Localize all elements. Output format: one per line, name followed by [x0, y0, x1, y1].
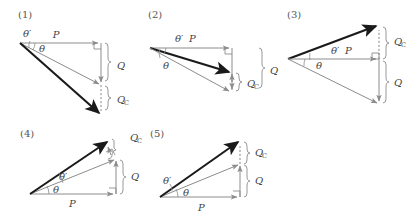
panel-3-theta-arc — [304, 59, 305, 66]
panel-3-label-theta: θ — [316, 60, 322, 71]
panel-3-right-angle — [372, 53, 379, 59]
panel-1-right-angle — [94, 43, 101, 49]
panel-2-Q-brace — [259, 48, 265, 88]
vector-diagram-svg: (1) P Q Q C θ θ′ (2) — [0, 0, 417, 219]
panel-1-theta-arc — [33, 43, 35, 50]
panel-5-Q-brace — [244, 165, 250, 197]
panel-2-label-theta: θ — [163, 60, 169, 71]
panel-4-label-theta-prime: θ′ — [59, 171, 68, 182]
panel-1-label-P: P — [52, 29, 60, 40]
panel-1-label-theta: θ — [39, 43, 45, 54]
panel-1-label-Qc-sub: C — [124, 99, 129, 107]
panel-5-label-Q: Q — [255, 175, 263, 186]
panel-4-label-P: P — [68, 198, 76, 209]
panel-2-label-Q: Q — [270, 65, 278, 76]
panel-2-label: (2) — [148, 9, 162, 20]
panel-1-Q-brace — [105, 43, 111, 81]
panel-3-Qc-brace — [383, 27, 389, 59]
panel-3-label: (3) — [287, 9, 301, 20]
panel-1-label: (1) — [18, 9, 32, 20]
panel-2-vector-resultant-theta-prime — [150, 48, 229, 72]
panel-4-label: (4) — [20, 128, 34, 139]
panel-3-label-theta-prime: θ′ — [331, 45, 340, 56]
panel-1: (1) P Q Q C θ θ′ — [18, 9, 129, 113]
panel-4-label-theta: θ — [53, 184, 59, 195]
panel-2-label-Qc-sub: C — [254, 83, 259, 91]
panel-3-label-P: P — [344, 45, 352, 56]
panel-3-vector-resultant-theta — [288, 59, 377, 103]
panel-4-right-angle-base — [109, 188, 116, 194]
figure-root: (1) P Q Q C θ θ′ (2) — [0, 0, 417, 219]
panel-3-label-Q: Q — [394, 77, 402, 88]
panel-5-Qc-brace — [244, 142, 250, 164]
panel-5-label-Qc-sub: C — [262, 152, 267, 160]
panel-2-label-P: P — [188, 33, 196, 44]
panel-5: (5) P θ θ′ Q C Q — [150, 128, 267, 213]
panel-5-label-theta-prime: θ′ — [163, 175, 172, 186]
panel-1-label-Q: Q — [117, 60, 125, 71]
panel-4: (4) P θ θ′ Q C Q — [20, 128, 142, 209]
panel-4-label-Q: Q — [131, 171, 139, 182]
panel-5-label: (5) — [150, 128, 164, 139]
panel-5-label-P: P — [197, 202, 205, 213]
panel-2-vector-resultant-theta — [150, 48, 229, 91]
panel-2-label-theta-prime: θ′ — [175, 33, 184, 44]
panel-4-label-Qc-sub: C — [137, 137, 142, 145]
panel-3-Q-brace — [383, 61, 389, 103]
panel-5-right-angle — [233, 191, 240, 197]
panel-1-Qc-brace — [105, 86, 111, 110]
panel-2: (2) P θ′ θ Q C Q — [148, 9, 278, 91]
panel-2-Qc-brace — [236, 73, 242, 91]
panel-3-label-Qc-sub: C — [401, 41, 406, 49]
panel-4-Q-brace — [120, 160, 126, 194]
panel-3: (3) θ′ P θ Q C Q — [287, 9, 406, 103]
panel-1-label-theta-prime: θ′ — [23, 28, 32, 39]
panel-1-theta-prime-arc — [29, 41, 30, 48]
panel-2-right-angle — [225, 48, 232, 54]
panel-5-label-theta: θ — [183, 187, 189, 198]
